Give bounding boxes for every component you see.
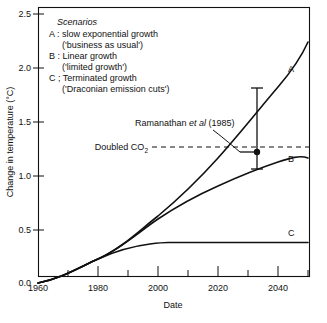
legend-entry-a-sub: ('business as usual') [62, 40, 143, 50]
legend-entry-b: B : Linear growth [49, 51, 117, 61]
x-tick-labels: 1960 1980 2000 2020 2040 [28, 283, 288, 293]
legend-entry-c: C ; Terminated growth [49, 73, 137, 83]
curve-label-b: B [288, 154, 294, 164]
chart-svg: 2.5 2.0 1.5 1.0 0.5 0.0 Change in temper… [0, 0, 327, 323]
y-tick-label: 0.5 [18, 225, 31, 235]
ramanathan-italic: et al [189, 118, 207, 128]
ramanathan-annotation: Ramanathan et al (1985) [135, 118, 235, 128]
ramanathan-suffix: (1985) [206, 118, 235, 128]
y-tick-label: 1.5 [18, 117, 31, 127]
ramanathan-data-point [254, 149, 260, 155]
y-tick-label: 1.0 [18, 171, 31, 181]
x-tick-label: 1960 [28, 283, 48, 293]
legend-entry-c-sub: ('Draconian emission cuts') [62, 84, 169, 94]
y-tick-label: 2.5 [18, 9, 31, 19]
y-tick-labels: 2.5 2.0 1.5 1.0 0.5 0.0 [18, 9, 31, 288]
x-tick-label: 2000 [148, 283, 168, 293]
temperature-scenarios-chart: 2.5 2.0 1.5 1.0 0.5 0.0 Change in temper… [0, 0, 327, 323]
x-tick-label: 2020 [208, 283, 228, 293]
curve-scenario-b [38, 157, 308, 283]
curve-label-c: C [288, 228, 295, 238]
legend-entry-a: A : slow exponential growth [49, 29, 158, 39]
legend-heading: Scenarios [57, 17, 98, 27]
y-axis-title: Change in temperature (°C) [5, 87, 15, 198]
doubled-co2-label-sub: 2 [144, 147, 148, 154]
x-tick-label: 2040 [268, 283, 288, 293]
x-tick-label: 1980 [88, 283, 108, 293]
curve-label-a: A [288, 64, 294, 74]
ramanathan-prefix: Ramanathan [135, 118, 189, 128]
doubled-co2-label: Doubled CO2 [95, 142, 149, 154]
legend: Scenarios A : slow exponential growth ('… [49, 17, 169, 94]
legend-entry-b-sub: ('limited growth') [62, 62, 127, 72]
x-axis-title: Date [163, 300, 182, 310]
doubled-co2-label-main: Doubled CO [95, 142, 145, 152]
x-axis-ticks [68, 266, 308, 277]
y-tick-label: 2.0 [18, 63, 31, 73]
